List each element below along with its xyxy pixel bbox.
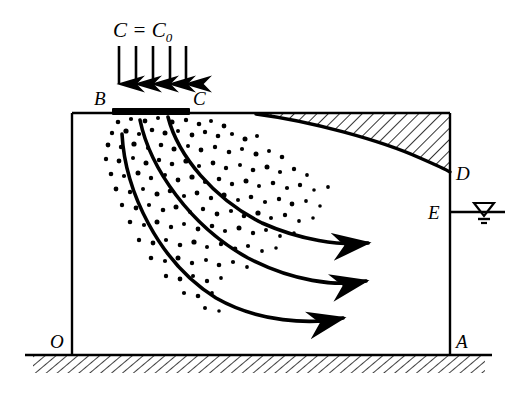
groundwater-contaminant-diagram: C = C0 B C D E O A xyxy=(0,0,520,401)
point-label-C: C xyxy=(193,88,206,109)
contaminant-source-strip xyxy=(112,108,190,115)
point-label-A: A xyxy=(454,331,468,352)
point-label-O: O xyxy=(50,331,64,352)
flow-lines-group xyxy=(122,117,368,321)
diagram-canvas: C = C0 B C D E O A xyxy=(0,0,520,401)
source-concentration-label: C = C0 xyxy=(113,18,173,45)
water-table-symbol xyxy=(450,203,505,223)
domain-wall-extensions xyxy=(72,341,450,355)
unsaturated-hatched-zone xyxy=(256,114,450,172)
contaminant-plume-dots xyxy=(104,116,330,313)
bedrock-hatched-base xyxy=(25,355,492,373)
point-label-E: E xyxy=(427,202,440,223)
point-label-B: B xyxy=(94,88,106,109)
point-label-D: D xyxy=(455,163,470,184)
infiltration-arrows xyxy=(119,46,186,84)
flow-line-upper xyxy=(168,117,368,244)
